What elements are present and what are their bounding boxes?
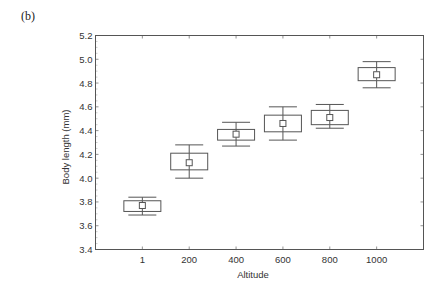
x-tick-label: 200 [181, 254, 197, 265]
y-tick-label: 5.2 [79, 30, 92, 41]
y-tick-label: 4.8 [79, 78, 92, 89]
center-marker [233, 131, 239, 137]
y-tick-label: 3.6 [79, 220, 92, 231]
center-marker [139, 203, 145, 209]
x-axis-ticks: 12004006008001000 [140, 36, 388, 265]
y-tick-label: 3.4 [79, 244, 92, 255]
x-tick-label: 1000 [366, 254, 387, 265]
x-tick-label: 1 [140, 254, 145, 265]
y-tick-label: 4.0 [79, 173, 92, 184]
center-marker [280, 120, 286, 126]
y-tick-label: 3.8 [79, 196, 92, 207]
box-1000 [358, 62, 395, 88]
y-axis-ticks: 3.43.63.84.04.24.44.64.85.05.2 [79, 30, 423, 255]
y-tick-label: 4.2 [79, 149, 92, 160]
box-plot-chart: 3.43.63.84.04.24.44.64.85.05.2 120040060… [0, 0, 445, 284]
y-axis-title: Body length (mm) [60, 110, 71, 185]
center-marker [327, 115, 333, 121]
center-marker [186, 160, 192, 166]
x-tick-label: 600 [275, 254, 291, 265]
box-800 [311, 104, 348, 128]
box-400 [218, 122, 255, 146]
box-1 [124, 197, 161, 215]
x-axis-title: Altitude [237, 269, 269, 280]
boxes-group [124, 62, 395, 215]
x-tick-label: 400 [228, 254, 244, 265]
x-tick-label: 800 [322, 254, 338, 265]
center-marker [374, 72, 380, 78]
y-tick-label: 5.0 [79, 54, 92, 65]
box-200 [171, 145, 208, 178]
y-tick-label: 4.4 [79, 125, 92, 136]
box-600 [264, 107, 301, 140]
y-tick-label: 4.6 [79, 101, 92, 112]
